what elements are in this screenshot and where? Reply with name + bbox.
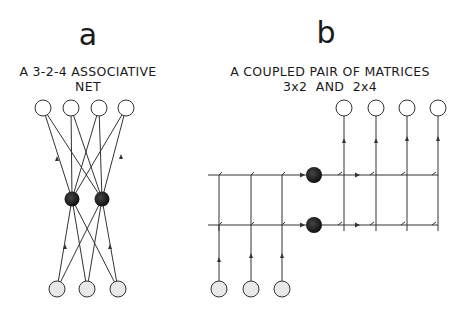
panel-b-input-node bbox=[243, 281, 259, 297]
panel-b-output-node bbox=[336, 100, 352, 116]
panel-a-hidden-to-output-edges bbox=[43, 108, 126, 199]
panel-b-matrix1-rows bbox=[208, 175, 306, 225]
panel-b-output-node bbox=[368, 100, 384, 116]
panel-b-network bbox=[208, 116, 440, 281]
panel-b-hidden-node bbox=[306, 167, 322, 183]
panel-b-output-node bbox=[399, 100, 415, 116]
panel-a-output-node bbox=[91, 100, 107, 116]
panel-a-input-layer bbox=[49, 281, 126, 297]
panel-a-output-node bbox=[118, 100, 134, 116]
panel-a-output-node bbox=[63, 100, 79, 116]
panel-a-hidden-node bbox=[65, 192, 80, 207]
panel-b-matrix1-synapses bbox=[219, 172, 285, 231]
panel-b-matrix1-columns bbox=[219, 175, 282, 281]
panel-b-hidden-node bbox=[306, 217, 322, 233]
panel-a-hidden-node bbox=[95, 192, 110, 207]
panel-b-hidden-layer bbox=[306, 167, 322, 233]
panel-b-matrix2-columns bbox=[344, 116, 438, 231]
panel-a-output-layer bbox=[35, 100, 134, 116]
panel-b-matrix2-rows bbox=[322, 175, 438, 225]
panel-b-input-node bbox=[211, 281, 227, 297]
panel-a-input-node bbox=[49, 281, 65, 297]
panel-b-output-node bbox=[430, 100, 446, 116]
diagram-canvas bbox=[0, 0, 457, 321]
panel-b-matrix2-synapses bbox=[338, 172, 436, 225]
panel-a-hidden-layer bbox=[65, 192, 110, 207]
panel-a-input-to-hidden-edges bbox=[57, 199, 118, 289]
panel-b-input-layer bbox=[211, 281, 290, 297]
panel-a-input-node bbox=[79, 281, 95, 297]
panel-b-input-node bbox=[274, 281, 290, 297]
panel-b-output-layer bbox=[336, 100, 446, 116]
panel-a-output-node bbox=[35, 100, 51, 116]
panel-a-network bbox=[43, 108, 126, 289]
panel-a-input-node bbox=[110, 281, 126, 297]
